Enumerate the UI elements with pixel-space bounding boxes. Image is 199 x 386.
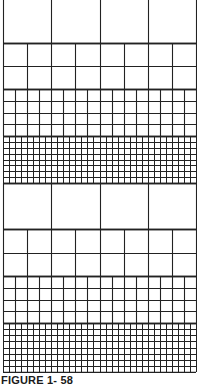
grid-svg	[2, 0, 197, 373]
figure-caption: FIGURE 1- 58	[1, 374, 73, 386]
grid-diagram	[3, 0, 196, 372]
